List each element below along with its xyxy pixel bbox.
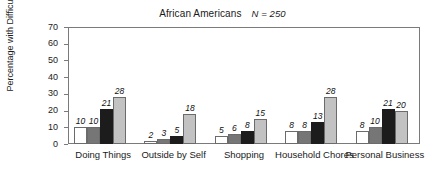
bar bbox=[144, 141, 157, 144]
chart-title-text: African Americans bbox=[159, 8, 241, 19]
bar bbox=[311, 122, 324, 144]
bar bbox=[215, 136, 228, 144]
chart-title: African AmericansN = 250 bbox=[0, 8, 445, 19]
bar bbox=[254, 119, 267, 144]
bar bbox=[183, 114, 196, 144]
bar bbox=[87, 127, 100, 144]
bar-value-label: 28 bbox=[320, 87, 341, 96]
chart-sample-size: N = 250 bbox=[252, 8, 286, 19]
chart-figure: African AmericansN = 250 Percentage with… bbox=[0, 0, 445, 173]
bar bbox=[228, 134, 241, 144]
y-tick-label: 0 bbox=[34, 140, 58, 149]
bar bbox=[382, 109, 395, 144]
bar-value-label: 15 bbox=[250, 109, 271, 118]
bar-value-label: 18 bbox=[179, 104, 200, 113]
bar bbox=[100, 109, 113, 144]
bar bbox=[395, 111, 408, 144]
bar bbox=[356, 131, 369, 144]
y-tick-label: 70 bbox=[34, 23, 58, 32]
bar bbox=[285, 131, 298, 144]
bar bbox=[369, 127, 382, 144]
bar bbox=[157, 139, 170, 144]
y-tick-label: 20 bbox=[34, 106, 58, 115]
bar-value-label: 20 bbox=[391, 101, 412, 110]
bar bbox=[74, 127, 87, 144]
bar bbox=[113, 97, 126, 144]
y-tick-mark bbox=[64, 144, 68, 145]
y-tick-label: 60 bbox=[34, 39, 58, 48]
y-tick-label: 10 bbox=[34, 123, 58, 132]
x-category-label: Personal Business bbox=[340, 149, 430, 160]
y-axis-label: Percentage with Difficulty bbox=[5, 0, 15, 101]
y-tick-label: 40 bbox=[34, 73, 58, 82]
bar bbox=[324, 97, 337, 144]
bar bbox=[298, 131, 311, 144]
y-tick-label: 50 bbox=[34, 56, 58, 65]
bar bbox=[241, 131, 254, 144]
y-tick-label: 30 bbox=[34, 89, 58, 98]
bar bbox=[170, 136, 183, 144]
bar-value-label: 28 bbox=[109, 87, 130, 96]
